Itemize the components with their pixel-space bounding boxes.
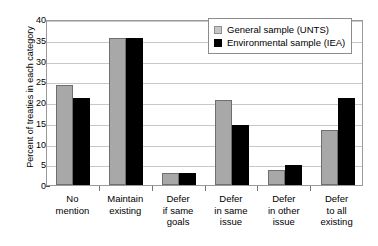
bar (162, 173, 179, 185)
bar (179, 173, 196, 185)
y-tick-label: 5 (26, 161, 46, 170)
bar (268, 170, 285, 185)
bar (285, 165, 302, 185)
bar (56, 85, 73, 185)
legend-swatch-icon (214, 26, 222, 34)
y-tick-label: 40 (26, 16, 46, 25)
x-axis-label: Deferto allexisting (310, 193, 363, 228)
x-axis-label: Maintainexisting (99, 193, 152, 216)
x-axis-label: Deferin otherissue (257, 193, 310, 228)
bar-group (100, 21, 153, 185)
x-tick-mark (99, 186, 100, 191)
y-tick-label: 10 (26, 141, 46, 150)
y-tick-label: 35 (26, 37, 46, 46)
y-tick-label: 15 (26, 120, 46, 129)
x-tick-mark (257, 186, 258, 191)
bar (215, 100, 232, 185)
y-axis-ticks: 4035302520151050 (18, 20, 46, 186)
y-tick-label: 20 (26, 99, 46, 108)
bar (321, 130, 338, 185)
y-tick-label: 30 (26, 58, 46, 67)
legend-label: General sample (UNTS) (227, 24, 329, 35)
bar (338, 98, 355, 185)
bar (73, 98, 90, 185)
legend-swatch-icon (214, 39, 222, 47)
x-tick-mark (310, 186, 311, 191)
bar (126, 38, 143, 185)
x-tick-mark (152, 186, 153, 191)
legend-item: Environmental sample (IEA) (214, 36, 345, 49)
y-tick-mark (46, 186, 50, 187)
bar-chart: Percent of treaties in each category 403… (0, 0, 378, 246)
bar (232, 125, 249, 185)
x-axis-label: Deferin sameissue (205, 193, 258, 228)
bar (109, 38, 126, 185)
y-tick-label: 25 (26, 78, 46, 87)
legend-label: Environmental sample (IEA) (227, 37, 345, 48)
x-axis-label: Deferif samegoals (152, 193, 205, 228)
legend-item: General sample (UNTS) (214, 23, 345, 36)
bar-group (47, 21, 100, 185)
chart-legend: General sample (UNTS)Environmental sampl… (208, 18, 352, 54)
y-tick-label: 0 (26, 182, 46, 191)
x-tick-mark (205, 186, 206, 191)
x-axis-label: Nomention (46, 193, 99, 216)
bar-group (153, 21, 206, 185)
